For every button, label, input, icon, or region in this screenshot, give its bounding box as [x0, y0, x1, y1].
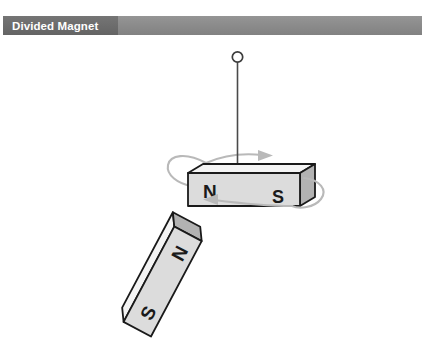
- divided-magnet-illustration: N S S N: [0, 0, 425, 349]
- suspension-assembly: [232, 52, 242, 176]
- hanging-magnet-south-label: S: [272, 187, 284, 207]
- rotation-arrow-head-right: [258, 150, 273, 161]
- tilted-bar-magnet: S N: [117, 212, 208, 336]
- rotation-arrow-top-segment: [206, 154, 262, 163]
- hanging-magnet-top-face: [188, 164, 315, 173]
- figure-root: Divided Magnet N S: [0, 0, 425, 349]
- suspension-ring-icon: [232, 52, 242, 62]
